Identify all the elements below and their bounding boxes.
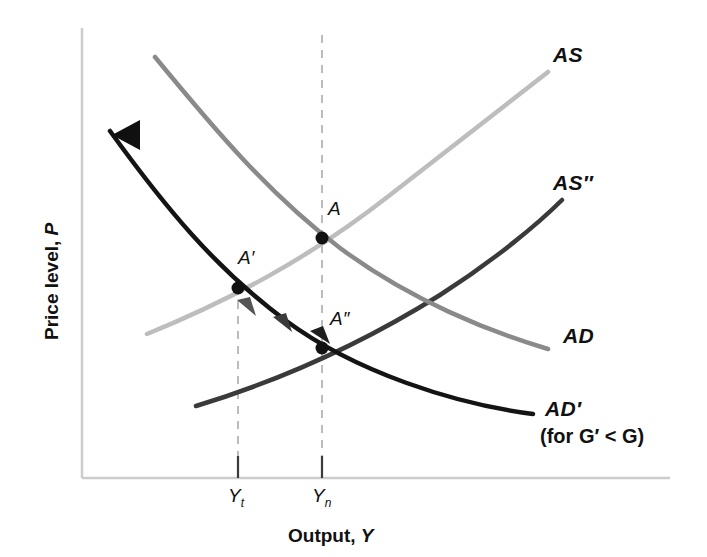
curve-label-adprime: AD′ <box>545 398 581 420</box>
tick-label-yn: Yn <box>312 486 331 509</box>
curve-label-ad: AD <box>563 325 594 347</box>
tick-label-yt-base: Y <box>228 485 241 506</box>
curve-label-as2: AS″ <box>553 172 593 194</box>
point-label-A: A <box>328 199 341 219</box>
x-axis-title-variable: Y <box>361 525 374 546</box>
curve-label-as: AS <box>553 44 583 66</box>
ad-as-diagram: AS AS″ AD AD′ (for G′ < G) A A′ A″ Yt Yn… <box>0 0 707 557</box>
tick-label-yn-sub: n <box>325 496 332 510</box>
y-axis-title-variable: P <box>41 223 62 236</box>
point-label-A-prime: A′ <box>238 248 254 268</box>
adjustment-path-arrows <box>237 297 330 344</box>
curve-as <box>147 72 548 334</box>
tick-label-yn-base: Y <box>312 485 325 506</box>
point-dot-A <box>316 232 329 245</box>
point-label-A-double-prime: A″ <box>330 309 349 329</box>
point-dot-A-double-prime <box>316 342 329 355</box>
x-axis-title-prefix: Output, <box>288 525 361 546</box>
tick-label-yt: Yt <box>228 486 244 509</box>
adprime-condition-note: (for G′ < G) <box>540 426 644 447</box>
y-axis-title: Price level, P <box>42 223 62 340</box>
leftward-shift-arrow <box>112 120 192 150</box>
plot-canvas <box>0 0 707 557</box>
tick-label-yt-sub: t <box>241 496 244 510</box>
x-axis-title: Output, Y <box>288 526 374 546</box>
point-dot-A-prime <box>232 282 245 295</box>
y-axis-title-prefix: Price level, <box>41 235 62 340</box>
